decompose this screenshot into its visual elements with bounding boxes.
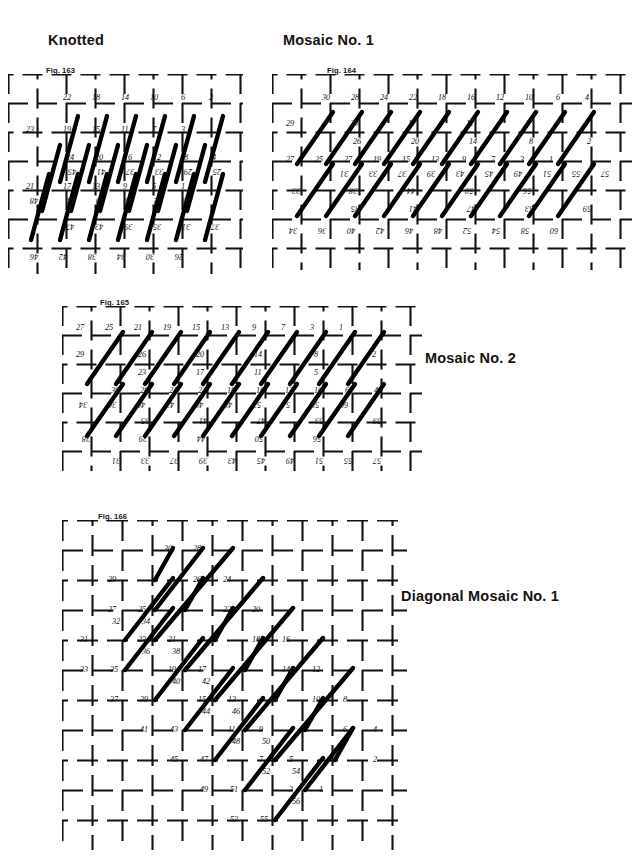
stitch-number: 51 — [543, 169, 551, 177]
stitch-number: 9 — [123, 183, 127, 191]
stitch-number: 1 — [181, 183, 185, 191]
stitch-number: 32 — [112, 618, 120, 626]
stitch-number: 13 — [228, 696, 236, 704]
stitch-number: 15 — [192, 324, 200, 332]
stitch-number: 19 — [63, 126, 71, 134]
stitch-number: 48 — [30, 196, 38, 204]
stitch-number: 29 — [108, 576, 116, 584]
stitch-number: 40 — [347, 226, 355, 234]
stitch-number: 47 — [66, 222, 74, 230]
stitch-number: 33 — [369, 169, 377, 177]
stitch-number: 24 — [380, 94, 388, 102]
stitch-number: 51 — [230, 786, 238, 794]
stitch-number: 31 — [340, 169, 348, 177]
stitch-number: 6 — [556, 94, 560, 102]
stitch-number: 23 — [138, 636, 146, 644]
stitch-number: 39 — [199, 456, 207, 464]
stitch-number: 7 — [259, 756, 263, 764]
stitch-number: 4 — [374, 387, 378, 395]
figure-mosaic-no-2: 2725211915139731292620148223171153028242… — [62, 306, 422, 471]
stitch-number: 58 — [521, 226, 529, 234]
stitch-number: 36 — [108, 400, 116, 408]
stitch-number: 41 — [97, 167, 105, 175]
stitch-number: 39 — [124, 222, 132, 230]
stitch-number: 15 — [198, 696, 206, 704]
stitch-number: 60 — [340, 400, 348, 408]
stitch-number: 14 — [469, 138, 477, 146]
stitch-number: 20 — [411, 138, 419, 146]
stitch-number: 54 — [292, 768, 300, 776]
diagram-page: KnottedMosaic No. 1Mosaic No. 2Diagonal … — [0, 0, 639, 859]
figure-label: Fig. 165 — [100, 298, 129, 307]
stitch-number: 59 — [583, 204, 591, 212]
stitch-number: 22 — [409, 94, 417, 102]
stitch-number: 17 — [198, 666, 206, 674]
stitch-number: 56 — [292, 798, 300, 806]
stitch-number: 47 — [200, 756, 208, 764]
stitch-number: 2 — [373, 756, 377, 764]
stitch-number: 45 — [257, 456, 265, 464]
stitch-number: 16 — [282, 636, 290, 644]
stitch-number: 1 — [549, 156, 553, 164]
stitch-number: 9 — [252, 324, 256, 332]
stitch-number: 54 — [492, 226, 500, 234]
stitch-number: 22 — [198, 387, 206, 395]
stitch-number: 14 — [282, 666, 290, 674]
canvas-mesh — [62, 520, 407, 850]
stitch-number: 27 — [76, 324, 84, 332]
stitch-number: 23 — [138, 369, 146, 377]
stitch-number: 9 — [462, 156, 466, 164]
heading-mosaic-no-1: Mosaic No. 1 — [283, 32, 374, 48]
stitch-number: 11 — [254, 369, 262, 377]
stitch-number: 13 — [92, 183, 100, 191]
stitch-number: 34 — [142, 618, 150, 626]
stitch-number: 7 — [281, 324, 285, 332]
stitch-number: 19 — [163, 324, 171, 332]
stitch-number: 40 — [96, 196, 104, 204]
stitch-number: 16 — [256, 387, 264, 395]
stitch-number: 15 — [92, 126, 100, 134]
stitch-number: 55 — [572, 169, 580, 177]
figure-label: Fig. 164 — [327, 66, 356, 75]
stitch-number: 33 — [80, 666, 88, 674]
stitch-number: 42 — [376, 226, 384, 234]
stitch-number: 43 — [456, 169, 464, 177]
stitch-number: 39 — [427, 169, 435, 177]
stitch-number: 7 — [152, 126, 156, 134]
stitch-number: 5 — [314, 369, 318, 377]
stitch-number: 5 — [289, 756, 293, 764]
stitch-number: 55 — [260, 816, 268, 824]
stitch-number: 42 — [166, 400, 174, 408]
stitch-number: 12 — [285, 387, 293, 395]
stitch-number: 30 — [111, 387, 119, 395]
stitch-number: 50 — [262, 738, 270, 746]
heading-mosaic-no-2: Mosaic No. 2 — [425, 350, 516, 366]
stitch-number: 29 — [184, 167, 192, 175]
stitch-number: 56 — [313, 434, 321, 442]
stitch-number: 18 — [252, 636, 260, 644]
stitch-number: 48 — [232, 738, 240, 746]
stitch-number: 25 — [105, 324, 113, 332]
stitch-number: 48 — [224, 400, 232, 408]
stitch-number: 28 — [193, 545, 201, 553]
stitch-number: 41 — [199, 416, 207, 424]
stitch-number: 49 — [200, 786, 208, 794]
stitch-number: 43 — [95, 222, 103, 230]
stitch-number: 20 — [95, 154, 103, 162]
stitch-number: 11 — [228, 726, 236, 734]
stitch-number: 28 — [140, 387, 148, 395]
stitch-number: 3 — [310, 324, 314, 332]
stitch-number: 6 — [181, 94, 185, 102]
stitch-number: 34 — [117, 252, 125, 260]
stitch-number: 4 — [212, 154, 216, 162]
stitch-number: 2 — [372, 351, 376, 359]
stitch-number: 30 — [164, 545, 172, 553]
stitch-number: 16 — [467, 94, 475, 102]
stitch-number: 30 — [322, 94, 330, 102]
stitch-number: 44 — [67, 196, 75, 204]
heading-knotted: Knotted — [48, 32, 104, 48]
stitch-number: 45 — [170, 756, 178, 764]
stitch-number: 2 — [209, 94, 213, 102]
stitch-number: 48 — [434, 226, 442, 234]
stitch-number: 24 — [66, 154, 74, 162]
